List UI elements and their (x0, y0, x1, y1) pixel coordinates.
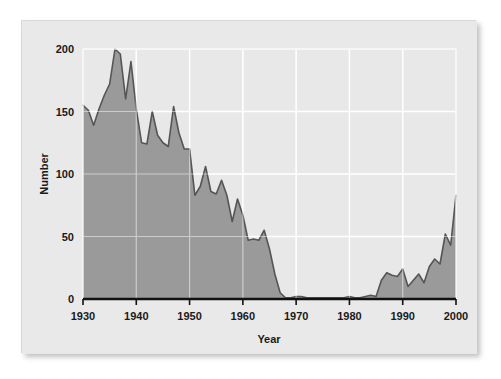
area-chart: 0501001502001930194019501960197019801990… (22, 21, 477, 354)
x-axis-tick-label: 1930 (71, 310, 95, 322)
x-axis-tick-label: 1950 (177, 310, 201, 322)
y-axis-tick-label: 0 (68, 293, 74, 305)
x-axis-tick-label: 1960 (231, 310, 255, 322)
x-axis-tick-label: 1970 (284, 310, 308, 322)
chart-card: 0501001502001930194019501960197019801990… (21, 20, 476, 353)
y-axis-title: Number (38, 153, 50, 195)
y-axis-tick-label: 100 (56, 168, 74, 180)
x-axis-tick-label: 2000 (444, 310, 468, 322)
chart-page: 0501001502001930194019501960197019801990… (0, 0, 501, 379)
y-axis-tick-label: 200 (56, 43, 74, 55)
x-axis-tick-label: 1990 (390, 310, 414, 322)
y-axis-tick-label: 50 (62, 231, 74, 243)
x-axis-tick-label: 1980 (337, 310, 361, 322)
x-axis-tick-label: 1940 (124, 310, 148, 322)
x-axis-title: Year (257, 333, 281, 345)
y-axis-tick-label: 150 (56, 106, 74, 118)
